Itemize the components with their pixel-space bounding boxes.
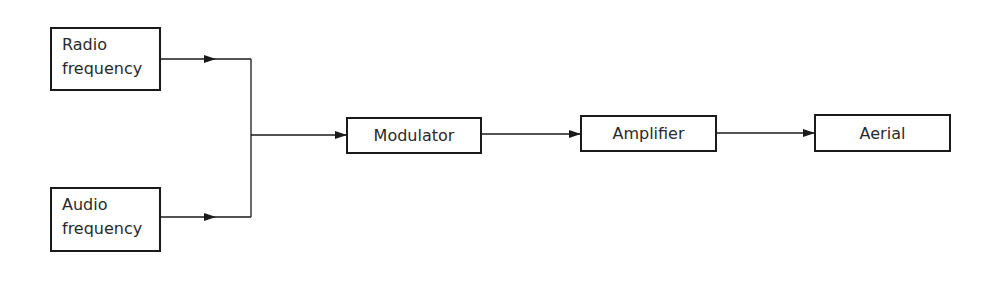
audio-frequency-line2: frequency	[62, 217, 159, 241]
aerial-block: Aerial	[814, 114, 951, 152]
radio-frequency-line1: Radio	[62, 33, 159, 57]
radio-frequency-line2: frequency	[62, 57, 159, 81]
amplifier-block: Amplifier	[580, 115, 717, 152]
modulator-label: Modulator	[374, 126, 455, 145]
aerial-label: Aerial	[860, 124, 906, 143]
amplifier-label: Amplifier	[612, 124, 684, 143]
audio-frequency-line1: Audio	[62, 193, 159, 217]
modulator-block: Modulator	[346, 117, 482, 154]
radio-frequency-block: Radio frequency	[50, 27, 161, 91]
audio-frequency-block: Audio frequency	[50, 187, 161, 252]
